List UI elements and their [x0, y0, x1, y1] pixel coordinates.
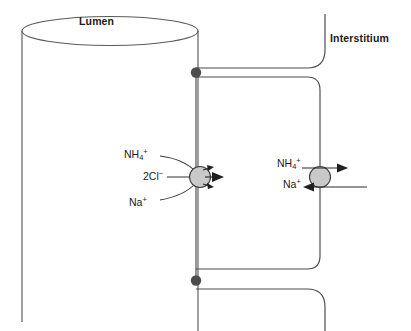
- transport-diagram: Lumen Interstitium NH4+ 2Cl− Na+ NH4+ Na…: [0, 0, 411, 331]
- apical-na-label: Na+: [129, 197, 147, 208]
- apical-lower-arrow-head: [207, 183, 214, 189]
- basolateral-na-label: Na+: [283, 179, 301, 190]
- adjacent-cell-above-border: [196, 14, 325, 68]
- basolateral-na-arrow-head: [303, 183, 314, 192]
- apical-upper-arrow-head: [207, 165, 214, 171]
- basolateral-na-base: Na: [283, 178, 296, 190]
- interstitium-label: Interstitium: [330, 33, 389, 44]
- basolateral-na-influx-arrow: [303, 183, 367, 192]
- diagram-canvas: [0, 0, 411, 331]
- basolateral-membrane: [196, 77, 320, 269]
- adjacent-cell-below: [196, 289, 325, 331]
- apical-nh4-label: NH4+: [124, 149, 148, 160]
- apical-nh4-base: NH: [124, 148, 139, 160]
- basolateral-nh4-sup: +: [296, 156, 300, 165]
- tight-junction-dot-apical-top: [191, 67, 201, 77]
- apical-2cl-sup: −: [159, 169, 163, 178]
- apical-2cl-label: 2Cl−: [143, 171, 163, 182]
- apical-nh4-sup: +: [143, 147, 147, 156]
- apical-transporter-arrows: [203, 165, 224, 189]
- apical-2cl-base: 2Cl: [143, 170, 159, 182]
- apical-na-base: Na: [129, 196, 142, 208]
- adjacent-cell-below-border: [196, 289, 325, 331]
- basolateral-nh4-base: NH: [277, 157, 292, 169]
- adjacent-cell-above: [196, 14, 325, 68]
- basolateral-na-sup: +: [296, 177, 300, 186]
- leader-na-apical: [160, 183, 196, 200]
- leader-nh4-apical: [160, 156, 196, 172]
- basolateral-nh4-arrow-head: [337, 164, 348, 173]
- lumen-label: Lumen: [79, 16, 114, 27]
- apical-main-arrow-head: [212, 172, 224, 182]
- apical-na-sup: +: [142, 195, 146, 204]
- tight-junction-dot-apical-bottom: [191, 275, 201, 285]
- basolateral-nh4-label: NH4+: [277, 158, 301, 169]
- lumen-cylinder: [22, 17, 198, 331]
